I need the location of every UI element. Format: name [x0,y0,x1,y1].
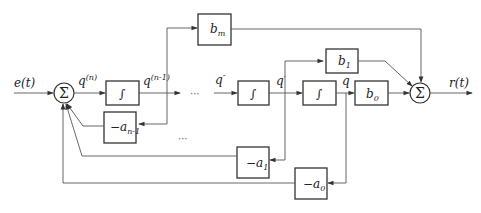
block-diagram: e(t) Σ q(n) ∫ q(n-1) bm ··· q″ ∫ q′ b1 [0,0,481,213]
integrator-block-2: ∫ [238,81,269,105]
input-label: e(t) [14,76,36,90]
gain-block-b1: b1 [326,49,358,73]
signal-q-0: q [342,74,350,88]
signal-q-n-1: q(n-1) [143,73,170,88]
output-summer: Σ [410,83,430,103]
sigma-icon: Σ [59,85,69,101]
gain-block-bm: bm [198,14,231,45]
gain-block-b0: b0 [355,81,388,105]
input-summer: Σ [54,83,74,103]
ellipsis-forward: ··· [190,88,200,99]
output-label: r(t) [449,76,469,90]
gain-block-a1: −a1 [237,147,269,178]
integral-icon: ∫ [119,87,126,101]
sigma-icon: Σ [415,85,425,101]
signal-q-2: q″ [215,73,226,87]
gain-block-a-n-1: −an-1 [104,112,140,143]
integral-icon: ∫ [250,87,257,101]
ellipsis-feedback: ··· [178,133,188,144]
integral-icon: ∫ [316,87,323,101]
integrator-block-1: ∫ [106,81,139,105]
integrator-block-3: ∫ [303,81,336,105]
gain-block-a0: −a0 [295,168,327,199]
signal-q-1: q′ [276,74,286,88]
signal-q-n: q(n) [78,73,97,88]
